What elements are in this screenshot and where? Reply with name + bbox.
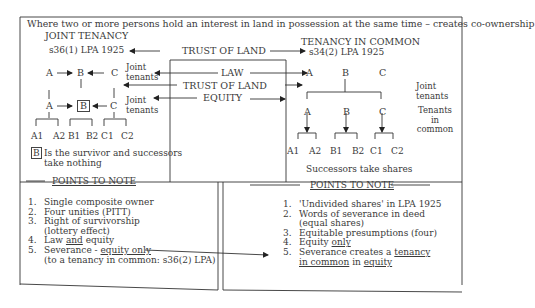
- tic-a2: A: [304, 107, 311, 117]
- tic-succ-c2: C2: [391, 146, 404, 156]
- header-text: Where two or more persons hold an intere…: [27, 19, 535, 29]
- tic-label-law: Joint tenants: [416, 82, 450, 101]
- tic-succ-a2: A2: [309, 146, 321, 156]
- jt-b1: B: [77, 68, 84, 78]
- jt-points-title: POINTS TO NOTE: [52, 176, 136, 186]
- tic-statute: s34(2) LPA 1925: [309, 47, 384, 57]
- jt-points-list: 1.Single composite owner 2.Four unities …: [28, 198, 216, 265]
- trust-of-land-top: TRUST OF LAND: [182, 46, 266, 56]
- tic-point-5: 5.Severance creates a tenancyin common i…: [283, 248, 442, 267]
- joint-tenancy-statute: s36(1) LPA 1925: [49, 45, 124, 55]
- successor-note: Successors take shares: [306, 164, 412, 174]
- survivor-legend-box: B: [31, 147, 42, 159]
- trust-of-land-mid: TRUST OF LAND: [183, 81, 267, 91]
- jt-succ-b2: B2: [86, 131, 98, 141]
- tic-c2: C: [379, 107, 386, 117]
- law-label: LAW: [221, 68, 244, 78]
- joint-tenancy-title: JOINT TENANCY: [45, 31, 128, 41]
- jt-c2: C: [110, 101, 117, 111]
- tic-succ-a1: A1: [287, 146, 299, 156]
- tic-b1: B: [342, 68, 349, 78]
- jt-succ-c2: C2: [121, 131, 134, 141]
- jt-succ-b1: B1: [68, 131, 80, 141]
- equity-label: EQUITY: [203, 93, 242, 103]
- tic-points-list: 1.'Undivided shares' in LPA 1925 2.Words…: [283, 200, 442, 267]
- jt-succ-a2: A2: [53, 131, 65, 141]
- tic-label-equity: Tenants in common: [414, 106, 456, 135]
- jt-succ-a1: A1: [31, 131, 43, 141]
- jt-succ-c1: C1: [101, 131, 114, 141]
- jt-c1: C: [111, 68, 118, 78]
- jt-point-3: 3.Right of survivorship(lottery effect): [28, 217, 216, 236]
- jt-label-law: Joint tenants: [126, 63, 160, 82]
- tic-points-title: POINTS TO NOTE: [310, 180, 394, 190]
- tic-point-2: 2.Words of severance in deed(equal share…: [283, 210, 442, 229]
- tic-succ-b2: B2: [352, 146, 364, 156]
- jt-b2-survivor: B: [77, 100, 90, 112]
- tic-b2: B: [343, 107, 350, 117]
- jt-point-5: 5.Severance - equity only(to a tenancy i…: [28, 246, 216, 265]
- jt-label-equity: Joint tenants: [126, 96, 160, 115]
- jt-a1: A: [46, 68, 53, 78]
- tic-succ-c1: C1: [370, 146, 383, 156]
- tic-a1: A: [306, 68, 313, 78]
- survivor-note-1: Is the survivor and successors: [44, 148, 182, 158]
- tic-succ-b1: B1: [330, 146, 342, 156]
- survivor-note-2: take nothing: [44, 158, 102, 168]
- tic-title: TENANCY IN COMMON: [301, 37, 420, 47]
- jt-a2: A: [46, 101, 53, 111]
- tic-c1: C: [379, 68, 386, 78]
